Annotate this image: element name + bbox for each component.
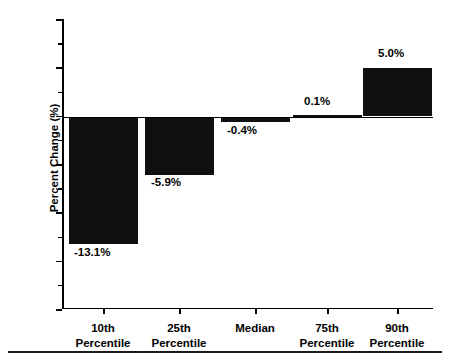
y-tick-major [56, 212, 62, 214]
plot-area: 10% 5% 0% -5% -10% -15% -20% -13.1% [62, 19, 433, 309]
bar-chart-figure: Percent Change (%) 10% 5% 0% -5% -10% -1… [0, 0, 450, 363]
x-axis-line [62, 308, 433, 310]
y-tick-minor [58, 43, 62, 45]
bar-value-label: -0.4% [227, 124, 257, 136]
x-tick [397, 308, 399, 314]
y-tick-major [56, 67, 62, 69]
y-tick-minor [58, 188, 62, 190]
y-tick-major [56, 116, 62, 118]
x-category-label-90th: 90th Percentile [347, 321, 447, 351]
y-tick-minor [58, 140, 62, 142]
x-label-line1: 90th [347, 321, 447, 336]
x-tick [103, 308, 105, 314]
x-tick [327, 308, 329, 314]
y-tick-minor [58, 92, 62, 94]
bar-value-label: 0.1% [304, 95, 330, 107]
y-tick-major [56, 164, 62, 166]
y-axis-title: Percent Change (%) [48, 68, 60, 248]
footer-divider-rule [8, 351, 442, 353]
bar-90th-percentile [363, 68, 432, 116]
x-label-line2: Percentile [129, 336, 229, 351]
bar-median [221, 118, 290, 122]
y-axis-line [62, 19, 64, 309]
bar-value-label: -5.9% [151, 176, 181, 188]
bar-value-label: -13.1% [74, 246, 110, 258]
y-tick-major [56, 261, 62, 263]
x-label-line2: Percentile [347, 336, 447, 351]
bar-value-label: 5.0% [378, 47, 404, 59]
x-tick [179, 308, 181, 314]
bar-75th-percentile [293, 115, 362, 117]
y-tick-major [56, 19, 62, 21]
y-tick-major [56, 309, 62, 311]
y-tick-minor [58, 237, 62, 239]
bar-25th-percentile [145, 118, 214, 175]
bar-10th-percentile [69, 118, 138, 245]
x-tick [255, 308, 257, 314]
y-tick-minor [58, 285, 62, 287]
